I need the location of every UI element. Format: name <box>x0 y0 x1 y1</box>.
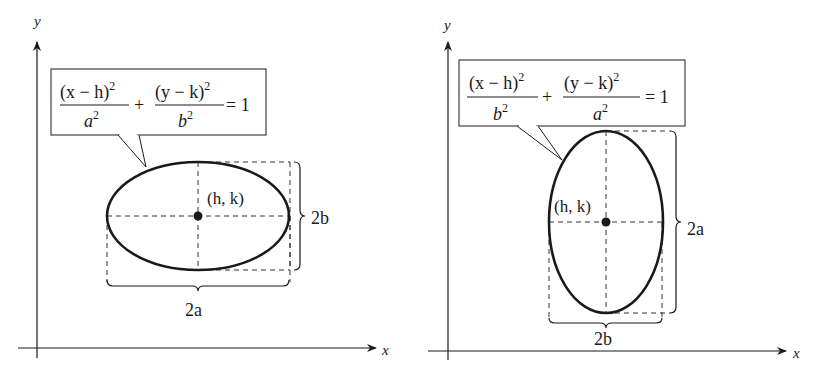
callout-pointer <box>517 126 562 160</box>
brace-minor-axis <box>549 318 662 328</box>
center-point <box>602 218 611 227</box>
callout-pointer <box>118 135 146 167</box>
x-axis-label: x <box>792 345 800 361</box>
center-point <box>194 212 203 221</box>
brace-major-axis <box>107 280 289 291</box>
x-axis-label: x <box>381 342 389 358</box>
center-label: (h, k) <box>207 189 244 208</box>
center-label: (h, k) <box>554 197 591 216</box>
svg-text:= 1: = 1 <box>645 87 669 107</box>
minor-axis-label: 2b <box>311 208 329 228</box>
dashed-guides <box>107 162 290 282</box>
ellipse-diagrams: y x (x − h)2 a2 + (y − k)2 b2 = 1 <box>0 0 823 384</box>
svg-text:(x − h)2: (x − h)2 <box>469 70 524 94</box>
minor-axis-label: 2b <box>594 329 612 349</box>
svg-text:+: + <box>542 87 552 107</box>
figure-horizontal-ellipse: y x (x − h)2 a2 + (y − k)2 b2 = 1 <box>18 13 389 358</box>
brace-major-axis <box>670 131 681 313</box>
svg-text:= 1: = 1 <box>226 95 250 115</box>
y-axis-label: y <box>32 13 41 29</box>
brace-minor-axis <box>294 162 305 270</box>
svg-text:+: + <box>134 95 144 115</box>
major-axis-label: 2a <box>687 219 704 239</box>
y-axis-label: y <box>442 17 451 33</box>
major-axis-label: 2a <box>185 300 202 320</box>
svg-text:(x − h)2: (x − h)2 <box>60 79 115 103</box>
figure-vertical-ellipse: y x (x − h)2 b2 + (y − k)2 a2 = 1 (h, k)… <box>428 17 800 361</box>
svg-text:(y − k)2: (y − k)2 <box>155 79 210 103</box>
svg-text:(y − k)2: (y − k)2 <box>564 70 619 94</box>
